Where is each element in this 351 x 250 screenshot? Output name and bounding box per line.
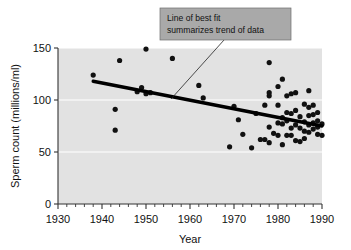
x-tick-label: 1940: [90, 213, 114, 225]
y-axis-title: Sperm count (millions/ml): [9, 64, 21, 188]
x-tick-label: 1980: [266, 213, 290, 225]
data-point: [297, 125, 302, 130]
data-point: [315, 110, 320, 115]
data-point: [302, 102, 307, 107]
data-point: [289, 111, 294, 116]
y-tick-label: 0: [45, 198, 51, 210]
data-point: [297, 139, 302, 144]
data-point: [293, 122, 298, 127]
data-point: [113, 107, 118, 112]
data-point: [306, 130, 311, 135]
data-point: [297, 114, 302, 119]
data-point: [267, 124, 272, 129]
data-point: [249, 145, 254, 150]
x-axis-title: Year: [179, 233, 202, 245]
data-point: [315, 132, 320, 137]
data-point: [280, 77, 285, 82]
data-point: [267, 60, 272, 65]
data-point: [302, 129, 307, 134]
chart-figure: 050100150 1930194019501960197019801990 L…: [0, 0, 351, 250]
data-point: [306, 88, 311, 93]
data-point: [275, 120, 280, 125]
data-point: [306, 113, 311, 118]
data-point: [170, 56, 175, 61]
data-point: [240, 132, 245, 137]
data-point: [201, 95, 206, 100]
x-tick-label: 1960: [178, 213, 202, 225]
data-point: [293, 108, 298, 113]
data-point: [289, 125, 294, 130]
data-point: [280, 121, 285, 126]
data-point: [262, 103, 267, 108]
x-tick-label: 1990: [310, 213, 334, 225]
data-point: [262, 137, 267, 142]
data-point: [113, 128, 118, 133]
annotation-line-2: summarizes trend of data: [167, 25, 264, 35]
data-point: [280, 142, 285, 147]
data-point: [227, 144, 232, 149]
data-point: [315, 118, 320, 123]
data-point: [275, 84, 280, 89]
data-point: [289, 133, 294, 138]
x-tick-label: 1970: [222, 213, 246, 225]
x-tick-label: 1950: [134, 213, 158, 225]
data-point: [236, 117, 241, 122]
annotation-line-1: Line of best fit: [167, 13, 221, 23]
data-point: [196, 83, 201, 88]
data-point: [275, 133, 280, 138]
data-point: [319, 133, 324, 138]
data-point: [302, 136, 307, 141]
data-point: [284, 110, 289, 115]
data-point: [117, 58, 122, 63]
data-point: [293, 138, 298, 143]
data-point: [275, 103, 280, 108]
data-point: [311, 103, 316, 108]
data-point: [267, 140, 272, 145]
scatter-chart: 050100150 1930194019501960197019801990 L…: [0, 0, 351, 250]
y-tick-label: 150: [33, 42, 51, 54]
x-tick-label: 1930: [46, 213, 70, 225]
y-tick-label: 100: [33, 94, 51, 106]
y-tick-label: 50: [39, 146, 51, 158]
data-point: [293, 90, 298, 95]
data-point: [289, 91, 294, 96]
data-point: [91, 72, 96, 77]
data-point: [143, 46, 148, 51]
data-point: [267, 90, 272, 95]
